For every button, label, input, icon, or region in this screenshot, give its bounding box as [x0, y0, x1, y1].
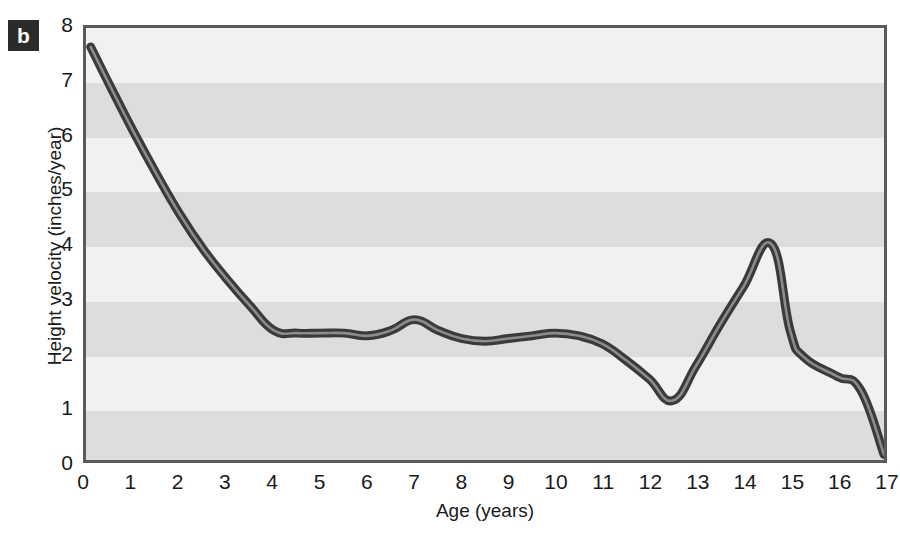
x-tick-8: 8 — [436, 471, 486, 492]
x-tick-17: 17 — [862, 471, 900, 492]
x-tick-15: 15 — [767, 471, 817, 492]
y-tick-3: 3 — [27, 288, 73, 309]
y-tick-5: 5 — [27, 178, 73, 199]
height-velocity-curve — [86, 28, 884, 460]
x-tick-10: 10 — [531, 471, 581, 492]
y-tick-6: 6 — [27, 124, 73, 145]
x-tick-3: 3 — [200, 471, 250, 492]
x-tick-6: 6 — [342, 471, 392, 492]
x-tick-13: 13 — [673, 471, 723, 492]
x-tick-0: 0 — [58, 471, 108, 492]
y-tick-4: 4 — [27, 233, 73, 254]
x-tick-16: 16 — [815, 471, 865, 492]
curve-outline-stroke — [91, 47, 884, 455]
x-tick-14: 14 — [720, 471, 770, 492]
x-tick-4: 4 — [247, 471, 297, 492]
x-tick-11: 11 — [578, 471, 628, 492]
plot-area — [83, 25, 887, 463]
y-tick-8: 8 — [27, 14, 73, 35]
x-axis-title: Age (years) — [83, 500, 887, 522]
y-tick-0: 0 — [27, 452, 73, 473]
x-tick-1: 1 — [105, 471, 155, 492]
x-tick-5: 5 — [294, 471, 344, 492]
x-tick-9: 9 — [484, 471, 534, 492]
growth-velocity-figure: b Height velocity (inches/year) 01234567… — [0, 0, 900, 536]
x-tick-7: 7 — [389, 471, 439, 492]
y-tick-7: 7 — [27, 69, 73, 90]
y-tick-1: 1 — [27, 397, 73, 418]
x-tick-12: 12 — [626, 471, 676, 492]
x-tick-2: 2 — [153, 471, 203, 492]
y-tick-2: 2 — [27, 343, 73, 364]
